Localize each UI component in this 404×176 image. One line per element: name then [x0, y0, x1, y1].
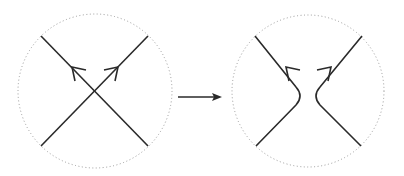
strand-right-smoothed	[316, 36, 362, 146]
strand-left-smoothed	[255, 36, 300, 146]
left-panel-crossing	[18, 14, 172, 168]
arrowhead-up-right-icon	[317, 67, 331, 81]
transition-arrow	[178, 93, 222, 101]
arrowhead-up-left-icon	[286, 67, 300, 81]
diagram-canvas	[0, 0, 404, 176]
right-panel-smoothing	[232, 15, 384, 167]
